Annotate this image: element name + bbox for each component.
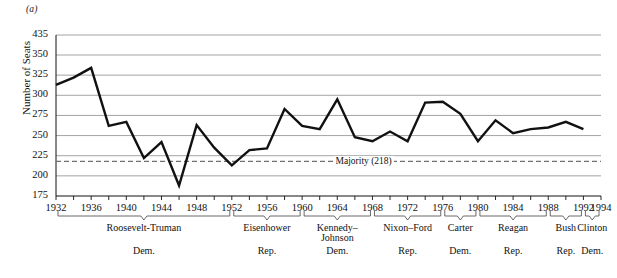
era-president-label: Reagan — [498, 223, 528, 233]
era-president-label: Eisenhower — [243, 223, 290, 233]
era-party-label: Rep. — [398, 246, 417, 256]
era-president-label: Carter — [448, 223, 473, 233]
x-axis-tick-label: 1972 — [397, 202, 418, 213]
x-axis-tick-label: 1968 — [362, 202, 383, 213]
x-axis-tick-label: 1948 — [186, 202, 207, 213]
era-president-label: Nixon–Ford — [383, 223, 432, 233]
x-axis-tick-label: 1988 — [538, 202, 559, 213]
figure-panel-a: (a) Number of Seats 43535032530027525022… — [0, 0, 617, 278]
era-president-label: Clinton — [577, 223, 607, 233]
x-axis-tick-label: 1944 — [151, 202, 172, 213]
x-axis-tick-label: 1936 — [81, 202, 102, 213]
era-party-label: Rep. — [504, 246, 523, 256]
era-party-label: Dem. — [449, 246, 471, 256]
era-party-label: Rep. — [258, 246, 277, 256]
era-president-label: Roosevelt-Truman — [107, 223, 182, 233]
x-axis-tick-label: 1952 — [221, 202, 242, 213]
x-axis-tick-label: 1994 — [591, 202, 612, 213]
x-axis-tick-label: 1976 — [432, 202, 453, 213]
era-party-label: Dem. — [326, 246, 348, 256]
era-president-label: Bush — [556, 223, 577, 233]
x-axis-tick-label: 1956 — [256, 202, 277, 213]
era-party-label: Dem. — [133, 246, 155, 256]
x-axis-tick-label: 1932 — [46, 202, 67, 213]
majority-line-label: Majority (218) — [334, 156, 394, 166]
era-president-label: Kennedy–Johnson — [317, 223, 358, 243]
x-axis-tick-label: 1960 — [292, 202, 313, 213]
x-axis-tick-label: 1964 — [327, 202, 348, 213]
x-axis-tick-label: 1980 — [467, 202, 488, 213]
x-axis-tick-label: 1984 — [503, 202, 524, 213]
x-axis-tick-label: 1940 — [116, 202, 137, 213]
seats-line-series — [56, 68, 583, 186]
era-party-label: Rep. — [557, 246, 576, 256]
era-party-label: Dem. — [581, 246, 603, 256]
chart-plot-area — [0, 0, 617, 278]
